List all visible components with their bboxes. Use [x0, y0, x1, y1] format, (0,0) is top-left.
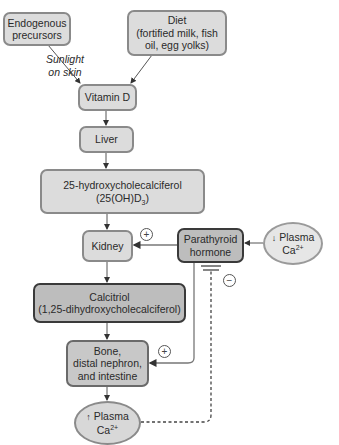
liver-node: Liver [79, 126, 134, 153]
plus-sign-targets: + [158, 345, 171, 358]
sunlight-line1: Sunlight [40, 53, 90, 66]
kidney-node: Kidney [82, 230, 133, 262]
minus-sign-inhibition: − [223, 274, 236, 287]
calcitriol-line2: (1,25-dihydroxycholecalciferol) [38, 303, 180, 316]
endogenous-precursors-node: Endogenous precursors [3, 12, 71, 46]
targets-line2: distal nephron, [73, 357, 142, 370]
high-ca-line1: ↑ Plasma [86, 410, 128, 424]
high-plasma-calcium-node: ↑ Plasma Ca2+ [74, 401, 141, 445]
hydroxy-line2: (25(OH)D3) [63, 192, 181, 205]
calcitriol-node: Calcitriol (1,25-dihydroxycholecalcifero… [33, 283, 186, 323]
diet-line3: oil, egg yolks) [136, 39, 218, 52]
targets-line1: Bone, [73, 345, 142, 358]
hydroxy-line1: 25-hydroxycholecalciferol [63, 179, 181, 192]
low-plasma-calcium-node: ↓ Plasma Ca2+ [263, 222, 323, 265]
pth-line1: Parathyroid [184, 233, 238, 246]
sunlight-label: Sunlight on skin [40, 53, 90, 78]
bone-nephron-intestine-node: Bone, distal nephron, and intestine [66, 340, 149, 387]
low-ca-line2: Ca2+ [272, 244, 314, 257]
endogenous-line2: precursors [8, 29, 67, 42]
up-arrow-icon: ↑ [86, 412, 91, 422]
targets-line3: and intestine [73, 370, 142, 383]
endogenous-line1: Endogenous [8, 17, 67, 30]
low-ca-line1: ↓ Plasma [272, 231, 314, 245]
diet-node: Diet (fortified milk, fish oil, egg yolk… [127, 10, 227, 56]
down-arrow-icon: ↓ [272, 233, 277, 243]
hydroxycholecalciferol-node: 25-hydroxycholecalciferol (25(OH)D3) [40, 169, 205, 214]
plus-sign-kidney: + [140, 228, 153, 241]
diet-line1: Diet [136, 14, 218, 27]
diet-line2: (fortified milk, fish [136, 27, 218, 40]
parathyroid-hormone-node: Parathyroid hormone [177, 228, 244, 263]
calcitriol-line1: Calcitriol [38, 291, 180, 304]
vitamin-d-node: Vitamin D [78, 84, 137, 111]
kidney-label: Kidney [91, 240, 123, 253]
pth-line2: hormone [184, 246, 238, 259]
vitamin-d-label: Vitamin D [85, 91, 130, 104]
high-ca-line2: Ca2+ [86, 424, 128, 437]
liver-label: Liver [95, 133, 118, 146]
sunlight-line2: on skin [40, 66, 90, 79]
